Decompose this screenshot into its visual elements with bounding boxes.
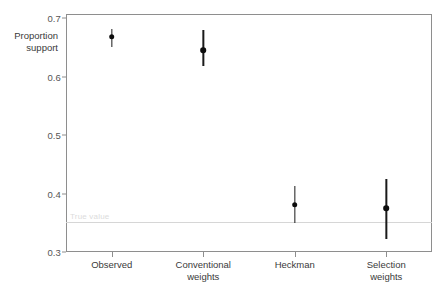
y-tick-label-0: 0.7 — [47, 13, 61, 24]
true-value-reference-line — [66, 222, 432, 223]
y-tick-label-3: 0.4 — [47, 189, 61, 200]
estimate-point-marker — [383, 205, 389, 211]
true-value-label: True value — [70, 212, 110, 221]
x-tick-label-2: Heckman — [275, 259, 315, 271]
x-tick-label-1: Conventional weights — [176, 259, 231, 282]
x-tick-label-3: Selection weights — [367, 259, 406, 282]
x-tick-label-0: Observed — [91, 259, 132, 271]
x-tick-mark-2 — [295, 252, 296, 257]
estimate-point-marker — [292, 202, 298, 208]
x-tick-mark-0 — [112, 252, 113, 257]
plot-area: True value — [66, 14, 432, 252]
x-tick-mark-3 — [386, 252, 387, 257]
y-tick-label-1: 0.6 — [47, 72, 61, 83]
y-tick-label-2: 0.5 — [47, 130, 61, 141]
error-bar-chart: Proportion support 0.7 0.6 0.5 0.4 0.3 T… — [0, 0, 444, 285]
estimate-point-marker — [200, 47, 206, 53]
y-axis: 0.7 0.6 0.5 0.4 0.3 — [0, 0, 61, 285]
x-tick-mark-1 — [203, 252, 204, 257]
estimate-point-marker — [109, 34, 115, 40]
y-tick-label-4: 0.3 — [47, 247, 61, 258]
